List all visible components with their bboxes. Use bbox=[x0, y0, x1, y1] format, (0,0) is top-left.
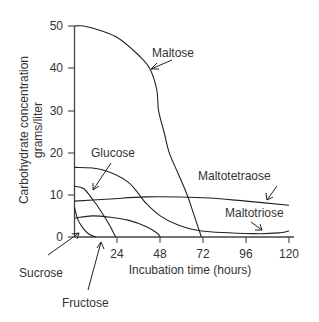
maltose-label: Maltose bbox=[152, 46, 194, 60]
y-tick-label: 10 bbox=[50, 188, 64, 202]
y-tick-label: 20 bbox=[50, 146, 64, 160]
y-tick-label: 50 bbox=[50, 19, 64, 33]
fructose-curve bbox=[75, 216, 161, 237]
sucrose-curve bbox=[75, 208, 97, 238]
x-ticks: 24 48 72 96 120 bbox=[110, 237, 299, 261]
sucrose-arrow-icon bbox=[48, 233, 79, 255]
x-axis-title: Incubation time (hours) bbox=[129, 263, 252, 277]
y-tick-label: 30 bbox=[50, 104, 64, 118]
y-axis-title-line1: Carbohydrate concentration bbox=[17, 56, 31, 204]
x-tick-label: 72 bbox=[196, 247, 210, 261]
maltotetraose-label: Maltotetraose bbox=[198, 169, 271, 183]
maltotriose-label: Maltotriose bbox=[225, 206, 284, 220]
x-tick-label: 24 bbox=[110, 247, 124, 261]
chart: 0 10 20 30 40 50 24 48 72 96 120 Incubat… bbox=[0, 0, 319, 322]
sucrose-label: Sucrose bbox=[19, 266, 63, 280]
y-axis-title: Carbohydrate concentration grams/liter bbox=[17, 56, 45, 204]
glucose-curve bbox=[75, 186, 116, 237]
glucose-arrow-icon bbox=[93, 163, 111, 190]
y-ticks: 0 10 20 30 40 50 bbox=[50, 19, 75, 244]
x-tick-label: 48 bbox=[153, 247, 167, 261]
fructose-arrow-icon bbox=[88, 242, 104, 290]
x-tick-label: 120 bbox=[279, 247, 299, 261]
maltotetraose-arrow-icon bbox=[266, 186, 277, 200]
maltose-arrow-icon bbox=[151, 60, 172, 69]
fructose-label: Fructose bbox=[62, 296, 109, 310]
y-tick-label: 40 bbox=[50, 61, 64, 75]
y-tick-label: 0 bbox=[56, 230, 63, 244]
x-tick-label: 96 bbox=[239, 247, 253, 261]
maltotetraose-curve bbox=[75, 197, 290, 205]
y-axis-title-line2: grams/liter bbox=[31, 102, 45, 158]
glucose-label: Glucose bbox=[91, 146, 135, 160]
maltotriose-arrow-icon bbox=[251, 222, 262, 230]
